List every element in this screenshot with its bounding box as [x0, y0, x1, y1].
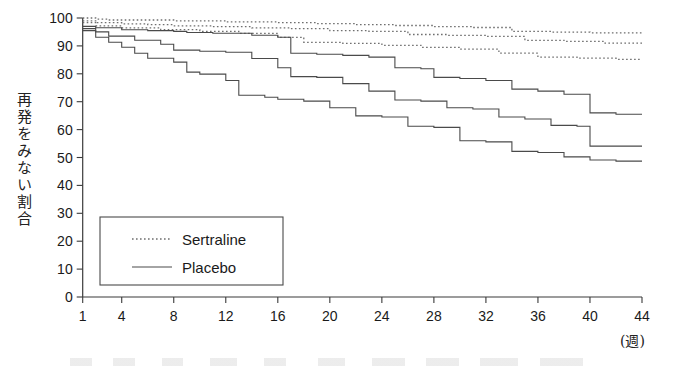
- y-tick-label: 30: [57, 205, 73, 221]
- y-tick-label: 20: [57, 233, 73, 249]
- y-axis-label: 再発をみない割合: [10, 92, 36, 228]
- x-axis-unit-label: (週): [620, 330, 645, 350]
- y-tick-label: 100: [49, 10, 73, 26]
- x-tick-label: 8: [170, 308, 178, 324]
- y-tick-label: 90: [57, 38, 73, 54]
- series-placebo-3: [83, 26, 642, 114]
- y-tick-label: 70: [57, 94, 73, 110]
- x-tick-label: 4: [118, 308, 126, 324]
- curve-group: [83, 18, 642, 161]
- y-tick-label: 40: [57, 177, 73, 193]
- legend-label-sertraline: Sertraline: [182, 231, 246, 248]
- series-placebo-4: [83, 29, 642, 147]
- y-axis-ticks: 0102030405060708090100: [49, 10, 82, 305]
- legend-label-placebo: Placebo: [182, 259, 236, 276]
- x-axis-ticks: 148121620242832364044: [79, 297, 650, 324]
- series-sertraline-2: [83, 23, 642, 60]
- caption-ghost-text: [70, 358, 610, 366]
- y-tick-label: 60: [57, 122, 73, 138]
- x-tick-label: 12: [218, 308, 234, 324]
- x-tick-label: 1: [79, 308, 87, 324]
- y-tick-label: 80: [57, 66, 73, 82]
- series-placebo-5: [83, 31, 642, 162]
- x-tick-label: 24: [374, 308, 390, 324]
- x-tick-label: 16: [270, 308, 286, 324]
- y-tick-label: 0: [65, 289, 73, 305]
- y-tick-label: 10: [57, 261, 73, 277]
- series-sertraline-1: [83, 21, 642, 43]
- legend-box: SertralinePlacebo: [100, 217, 283, 285]
- x-tick-label: 20: [322, 308, 338, 324]
- plot-area: 0102030405060708090100 14812162024283236…: [0, 0, 678, 368]
- x-tick-label: 32: [478, 308, 494, 324]
- y-tick-label: 50: [57, 150, 73, 166]
- x-tick-label: 28: [426, 308, 442, 324]
- survival-chart-figure: 再発をみない割合 (週) 0102030405060708090100 1481…: [0, 0, 678, 368]
- x-tick-label: 44: [634, 308, 650, 324]
- x-tick-label: 36: [530, 308, 546, 324]
- x-tick-label: 40: [582, 308, 598, 324]
